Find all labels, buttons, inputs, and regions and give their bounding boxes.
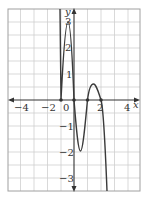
y-tick-label: 1 [66, 69, 72, 80]
x-tick-label: −4 [14, 102, 29, 113]
x-tick-label: −2 [41, 102, 56, 113]
y-tick-label: −1 [59, 121, 74, 132]
y-tick-label: −2 [59, 147, 74, 158]
x-tick-label: 0 [63, 102, 69, 113]
x-tick-label: 4 [124, 102, 130, 113]
zero-dot [72, 98, 76, 102]
y-tick-label: 2 [65, 42, 71, 53]
zero-dot [86, 98, 90, 102]
x-tick-label: 2 [97, 102, 103, 113]
x-axis-label: x [133, 99, 139, 110]
graph: −4 −2 0 2 4 x y 3 2 1 −1 −2 −3 [0, 0, 148, 198]
y-tick-label: −3 [59, 173, 74, 184]
y-tick-label: 3 [65, 16, 71, 27]
